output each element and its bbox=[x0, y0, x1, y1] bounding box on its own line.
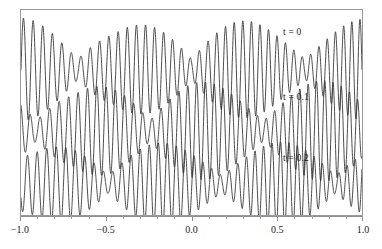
curves-svg bbox=[21, 10, 362, 215]
x-axis-minor-tick bbox=[174, 216, 175, 219]
trace-label-0: t = 0 bbox=[283, 27, 302, 37]
x-axis-minor-tick bbox=[89, 216, 90, 219]
x-axis-tick-label: 1.0 bbox=[357, 224, 370, 235]
trace-label-2: t = 0.2 bbox=[283, 153, 309, 163]
trace-label-1: t = 0.1 bbox=[283, 92, 309, 102]
plot-frame bbox=[20, 9, 363, 216]
x-axis-minor-tick bbox=[260, 216, 261, 219]
x-axis-minor-tick bbox=[123, 216, 124, 219]
x-axis-major-tick bbox=[192, 216, 193, 221]
x-axis-major-tick bbox=[106, 216, 107, 221]
x-axis-minor-tick bbox=[54, 216, 55, 219]
trace-curve bbox=[21, 18, 362, 120]
x-axis-minor-tick bbox=[157, 216, 158, 219]
trace-curve bbox=[21, 81, 362, 181]
x-axis-minor-tick bbox=[226, 216, 227, 219]
x-axis-minor-tick bbox=[294, 216, 295, 219]
x-axis-minor-tick bbox=[140, 216, 141, 219]
x-axis-tick-label: 0.5 bbox=[271, 224, 284, 235]
x-axis-major-tick bbox=[277, 216, 278, 221]
x-axis-minor-tick bbox=[312, 216, 313, 219]
x-axis-major-tick bbox=[20, 216, 21, 221]
x-axis-minor-tick bbox=[209, 216, 210, 219]
x-axis: −1.0−0.50.00.51.0 bbox=[20, 216, 363, 249]
x-axis-minor-tick bbox=[329, 216, 330, 219]
x-axis-tick-label: −0.5 bbox=[97, 224, 115, 235]
x-axis-minor-tick bbox=[243, 216, 244, 219]
x-axis-tick-label: −1.0 bbox=[11, 224, 29, 235]
x-axis-major-tick bbox=[362, 216, 363, 221]
x-axis-minor-tick bbox=[346, 216, 347, 219]
x-axis-minor-tick bbox=[37, 216, 38, 219]
figure-canvas: t = 0 t = 0.1 t = 0.2 −1.0−0.50.00.51.0 bbox=[0, 0, 382, 249]
x-axis-minor-tick bbox=[71, 216, 72, 219]
x-axis-tick-label: 0.0 bbox=[185, 224, 198, 235]
